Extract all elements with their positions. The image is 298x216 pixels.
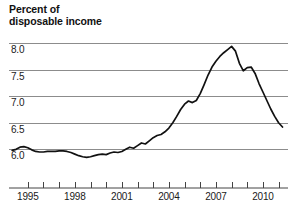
chart-figure: Percent of disposable income 6.06.57.07.… <box>0 0 298 216</box>
x-tick-label-2004: 2004 <box>158 191 179 202</box>
plot-area <box>0 0 298 216</box>
x-tick-label-2001: 2001 <box>111 191 132 202</box>
y-tick-label-7.5: 7.5 <box>11 71 24 82</box>
y-tick-label-6.0: 6.0 <box>11 150 24 161</box>
y-tick-label-7.0: 7.0 <box>11 97 24 108</box>
gridlines <box>9 44 288 150</box>
x-tick-label-2010: 2010 <box>252 191 273 202</box>
y-tick-label-8.0: 8.0 <box>11 44 24 55</box>
data-series-line <box>12 46 282 157</box>
y-tick-label-6.5: 6.5 <box>11 124 24 135</box>
x-tick-label-1998: 1998 <box>64 191 85 202</box>
x-tick-label-1995: 1995 <box>17 191 38 202</box>
x-tick-label-2007: 2007 <box>205 191 226 202</box>
x-axis-ticks <box>29 182 280 188</box>
